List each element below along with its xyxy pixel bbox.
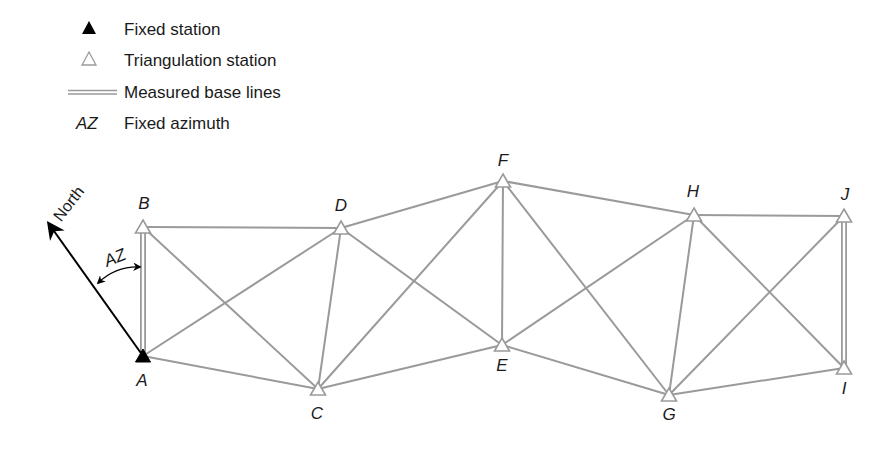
triangulation-station-icon xyxy=(496,174,511,187)
station-label: I xyxy=(842,379,847,398)
edge-FE xyxy=(502,181,503,345)
azimuth-indicator: AZ xyxy=(98,245,140,283)
azimuth-arc-icon xyxy=(98,267,140,283)
edge-HJ xyxy=(694,215,844,216)
edge-DE xyxy=(341,228,502,345)
edge-FH xyxy=(503,181,694,215)
edge-EG xyxy=(502,345,669,395)
edge-DC xyxy=(318,228,341,389)
legend-label: Triangulation station xyxy=(124,51,276,70)
station-I: I xyxy=(837,361,852,398)
station-F: F xyxy=(496,151,511,187)
network-edges xyxy=(143,181,844,395)
az-symbol: AZ xyxy=(75,114,98,133)
measured-base-lines xyxy=(143,216,844,368)
edge-AD xyxy=(143,228,341,356)
station-A: A xyxy=(135,349,150,390)
edge-BD xyxy=(143,227,341,228)
edge-CE xyxy=(318,345,502,389)
station-E: E xyxy=(495,338,510,375)
legend-label: Fixed station xyxy=(124,20,220,39)
station-label: J xyxy=(840,185,850,204)
station-label: G xyxy=(662,405,675,424)
legend-row-fixed-azimuth: AZ Fixed azimuth xyxy=(75,114,230,133)
edge-GI xyxy=(669,368,844,395)
station-label: E xyxy=(496,356,508,375)
station-label: D xyxy=(335,196,347,215)
azimuth-label: AZ xyxy=(100,245,129,271)
station-label: A xyxy=(135,371,147,390)
edge-DF xyxy=(341,181,503,228)
legend-row-fixed-station: Fixed station xyxy=(82,20,220,39)
edge-BC xyxy=(143,227,318,389)
double-line-icon xyxy=(68,91,117,95)
legend-label: Measured base lines xyxy=(124,83,281,102)
legend-row-triangulation-station: Triangulation station xyxy=(82,51,276,70)
edge-EH xyxy=(502,215,694,345)
north-arrow: North xyxy=(49,183,143,356)
legend: Fixed station Triangulation station Meas… xyxy=(68,20,281,133)
edge-HG xyxy=(669,215,694,395)
fixed-station-icon xyxy=(136,349,151,362)
legend-row-measured-base-lines: Measured base lines xyxy=(68,83,281,102)
edge-AC xyxy=(143,356,318,389)
edge-GJ xyxy=(669,216,844,395)
fixed-station-icon xyxy=(82,21,96,34)
north-label: North xyxy=(50,183,87,224)
station-label: C xyxy=(311,404,324,423)
north-arrow-icon xyxy=(49,224,143,356)
station-label: F xyxy=(498,151,510,170)
legend-label: Fixed azimuth xyxy=(124,114,230,133)
station-label: H xyxy=(687,182,700,201)
station-label: B xyxy=(138,194,149,213)
triangulation-network-diagram: Fixed station Triangulation station Meas… xyxy=(0,0,886,454)
triangulation-station-icon xyxy=(82,52,96,65)
